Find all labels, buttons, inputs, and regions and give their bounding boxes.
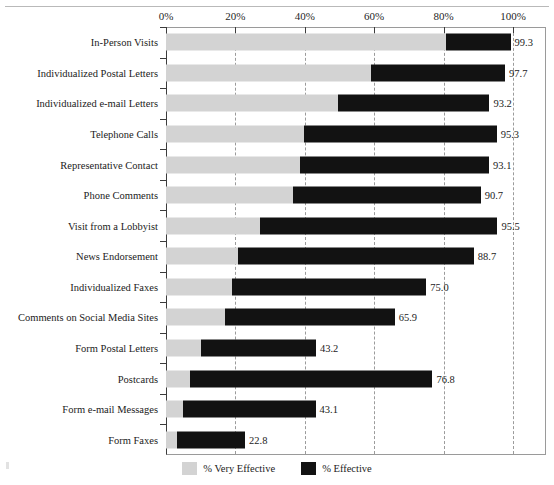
chart-row: Individualized e-mail Letters93.2 (0, 88, 554, 119)
y-tick-mark (160, 58, 166, 59)
bar-value-label: 99.3 (511, 37, 533, 48)
bar-segment-very-effective (166, 431, 177, 448)
category-label: News Endorsement (0, 250, 158, 263)
chart-row: Representative Contact93.1 (0, 149, 554, 180)
stacked-bar[interactable] (166, 217, 497, 234)
stacked-bar[interactable] (166, 339, 316, 356)
bar-segment-effective (446, 34, 511, 51)
bar-value-label: 93.1 (489, 159, 511, 170)
category-label: Form Postal Letters (0, 341, 158, 354)
stacked-bar[interactable] (166, 401, 316, 418)
stacked-bar[interactable] (166, 64, 505, 81)
x-tick-label-0: 0% (159, 10, 174, 22)
bar-segment-effective (304, 125, 497, 142)
bar-segment-very-effective (166, 64, 371, 81)
y-tick-mark (160, 363, 166, 364)
bar-value-label: 22.8 (245, 434, 267, 445)
category-label: In-Person Visits (0, 36, 158, 49)
chart-row: Individualized Faxes75.0 (0, 272, 554, 303)
bar-segment-very-effective (166, 401, 183, 418)
stacked-bar[interactable] (166, 34, 511, 51)
bar-value-label: 90.7 (481, 190, 503, 201)
bar-segment-effective (225, 309, 395, 326)
bar-value-label: 75.0 (426, 281, 448, 292)
bar-value-label: 97.7 (505, 67, 527, 78)
bar-value-label: 76.8 (432, 373, 454, 384)
bar-segment-very-effective (166, 156, 300, 173)
category-label: Comments on Social Media Sites (0, 311, 158, 324)
legend-swatch-icon (182, 462, 197, 475)
y-tick-mark (160, 394, 166, 395)
chart-row: News Endorsement88.7 (0, 241, 554, 272)
category-label: Individualized e-mail Letters (0, 97, 158, 110)
category-label: Form e-mail Messages (0, 403, 158, 416)
stacked-bar[interactable] (166, 95, 489, 112)
bar-segment-very-effective (166, 278, 232, 295)
chart-row: Comments on Social Media Sites65.9 (0, 302, 554, 333)
bar-value-label: 88.7 (474, 251, 496, 262)
y-tick-mark (160, 88, 166, 89)
bar-segment-effective (338, 95, 490, 112)
chart-legend: % Very Effective% Effective (0, 462, 554, 475)
category-label: Phone Comments (0, 189, 158, 202)
category-label: Visit from a Lobbyist (0, 219, 158, 232)
bar-value-label: 65.9 (395, 312, 417, 323)
scan-artifact (6, 462, 9, 469)
chart-row: Visit from a Lobbyist95.5 (0, 210, 554, 241)
legend-item[interactable]: % Effective (301, 462, 372, 475)
bar-segment-very-effective (166, 309, 225, 326)
y-tick-mark (160, 302, 166, 303)
chart-row: Form Postal Letters43.2 (0, 333, 554, 364)
stacked-bar[interactable] (166, 431, 245, 448)
bar-segment-very-effective (166, 187, 293, 204)
y-tick-mark (160, 272, 166, 273)
bar-segment-effective (183, 401, 315, 418)
x-tick-label-100: 100% (500, 10, 526, 22)
y-tick-mark (160, 210, 166, 211)
bar-value-label: 95.5 (497, 220, 519, 231)
bar-segment-very-effective (166, 217, 260, 234)
bar-value-label: 93.2 (489, 98, 511, 109)
bar-segment-very-effective (166, 370, 190, 387)
y-tick-mark (160, 27, 166, 28)
bar-segment-effective (177, 431, 245, 448)
bar-segment-effective (293, 187, 481, 204)
x-tick-label-60: 60% (364, 10, 384, 22)
chart-title-remnant (0, 0, 554, 3)
chart-row: Form Faxes22.8 (0, 424, 554, 455)
bar-value-label: 43.2 (316, 342, 338, 353)
bar-segment-very-effective (166, 339, 201, 356)
bar-segment-very-effective (166, 248, 238, 265)
y-tick-mark (160, 119, 166, 120)
chart-row: In-Person Visits99.3 (0, 27, 554, 58)
chart-row: Individualized Postal Letters97.7 (0, 58, 554, 89)
bar-segment-effective (201, 339, 316, 356)
legend-item[interactable]: % Very Effective (182, 462, 275, 475)
stacked-bar[interactable] (166, 248, 474, 265)
stacked-bar[interactable] (166, 125, 497, 142)
bar-segment-effective (190, 370, 432, 387)
chart-rows: In-Person Visits99.3Individualized Posta… (0, 27, 554, 455)
bar-segment-effective (232, 278, 426, 295)
x-tick-label-20: 20% (225, 10, 245, 22)
y-tick-mark (160, 149, 166, 150)
bar-segment-very-effective (166, 125, 304, 142)
category-label: Representative Contact (0, 158, 158, 171)
bar-segment-effective (238, 248, 474, 265)
x-tick-label-40: 40% (295, 10, 315, 22)
y-tick-mark (160, 424, 166, 425)
stacked-bar[interactable] (166, 370, 432, 387)
chart-row: Telephone Calls95.3 (0, 119, 554, 150)
bar-value-label: 95.3 (497, 128, 519, 139)
y-tick-mark (160, 180, 166, 181)
bar-segment-very-effective (166, 34, 446, 51)
stacked-bar[interactable] (166, 156, 489, 173)
bar-segment-effective (300, 156, 489, 173)
y-tick-mark (160, 333, 166, 334)
category-label: Postcards (0, 372, 158, 385)
stacked-bar[interactable] (166, 278, 426, 295)
stacked-bar[interactable] (166, 187, 481, 204)
legend-swatch-icon (301, 462, 316, 475)
stacked-bar[interactable] (166, 309, 395, 326)
chart-row: Phone Comments90.7 (0, 180, 554, 211)
